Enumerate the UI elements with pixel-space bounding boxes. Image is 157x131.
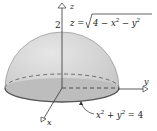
boundary-equation: x2 + y2 = 4 <box>96 109 143 120</box>
svg-text:z =: z = <box>69 18 84 28</box>
y-axis-arrow-icon <box>143 86 148 92</box>
svg-text:4 − x2 − y2: 4 − x2 − y2 <box>92 17 141 28</box>
y-axis-label: y <box>143 77 149 86</box>
z-axis-arrow-icon <box>58 3 66 8</box>
hemisphere-diagram: z y x 2 z = 4 − x2 − y2 x2 + y2 = 4 <box>0 0 157 131</box>
pointer-arrow-icon <box>81 102 94 114</box>
surface-equation: z = 4 − x2 − y2 <box>69 14 152 28</box>
x-axis-label: x <box>47 118 52 127</box>
z-axis-label: z <box>69 2 75 11</box>
x-axis-arrow-icon <box>41 117 46 122</box>
z-tick-label: 2 <box>55 20 61 30</box>
